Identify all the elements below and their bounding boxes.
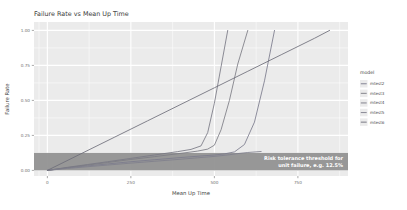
y-axis-tick-label: 0.75 (21, 63, 31, 68)
legend-label-mtest3[interactable]: mtest3 (370, 91, 385, 96)
legend-label-mtest4[interactable]: mtest4 (370, 100, 385, 105)
y-axis-tick-label: 0.25 (21, 133, 31, 138)
legend-label-mtest2[interactable]: mtest2 (370, 81, 385, 86)
y-axis-tick-label: 0.50 (21, 98, 31, 103)
risk-threshold-annotation: Risk tolerance threshold for (264, 155, 343, 161)
chart-title: Failure Rate vs Mean Up Time (34, 10, 129, 18)
x-axis-tick-label: 250 (127, 180, 135, 185)
failure-rate-line-chart: Failure Rate vs Mean Up Time Mean Up Tim… (0, 0, 407, 210)
plot-area (34, 22, 348, 176)
legend-label-mtest6[interactable]: mtest6 (370, 120, 385, 125)
legend-title: model (360, 70, 374, 75)
risk-threshold-annotation: unit failure, e.g. 12.5% (278, 162, 343, 169)
x-axis-tick-label: 500 (210, 180, 218, 185)
y-axis-tick-label: 0.00 (21, 168, 31, 173)
y-axis-tick-label: 1.00 (21, 28, 31, 33)
chart-container: Failure Rate vs Mean Up Time Mean Up Tim… (0, 0, 407, 210)
x-axis-tick-label: 750 (294, 180, 302, 185)
x-axis-tick-label: 0 (46, 180, 49, 185)
legend-label-mtest5[interactable]: mtest5 (370, 110, 385, 115)
y-axis-title: Failure Rate (4, 83, 10, 114)
x-axis-title: Mean Up Time (172, 190, 210, 197)
